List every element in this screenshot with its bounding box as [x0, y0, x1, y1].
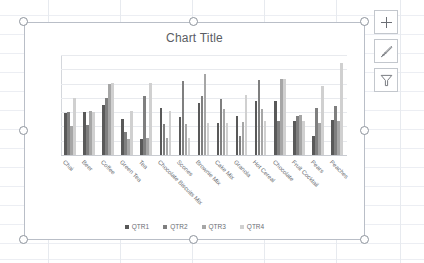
- legend-swatch: [125, 225, 129, 229]
- selection-handle-middle-left[interactable]: [19, 126, 28, 135]
- bar-group[interactable]: [175, 55, 194, 155]
- plus-icon: [379, 15, 394, 30]
- bar-group[interactable]: [328, 55, 347, 155]
- selection-handle-top-center[interactable]: [189, 17, 198, 26]
- legend-item[interactable]: QTR2: [163, 223, 187, 230]
- legend-swatch: [163, 225, 167, 229]
- legend-swatch: [240, 225, 244, 229]
- bar[interactable]: [149, 83, 152, 155]
- selection-handle-bottom-center[interactable]: [189, 235, 198, 244]
- bar[interactable]: [207, 123, 210, 155]
- bar[interactable]: [321, 86, 324, 155]
- selection-handle-top-right[interactable]: [360, 17, 369, 26]
- category-axis-labels: ChaiBeerCoffeeGreen TeaTeaChocolate Bisc…: [61, 157, 347, 227]
- legend-item[interactable]: QTR1: [125, 223, 149, 230]
- plot-area[interactable]: [61, 55, 347, 155]
- paintbrush-icon: [379, 44, 394, 59]
- bar[interactable]: [130, 111, 133, 155]
- bar-group[interactable]: [156, 55, 175, 155]
- legend-label: QTR2: [170, 223, 187, 230]
- bar[interactable]: [188, 138, 191, 155]
- bar[interactable]: [73, 98, 76, 155]
- bar-group[interactable]: [80, 55, 99, 155]
- bar[interactable]: [245, 95, 248, 155]
- selection-handle-top-left[interactable]: [19, 17, 28, 26]
- bar-group[interactable]: [61, 55, 80, 155]
- chart-object[interactable]: Chart Title 0100200300400500600700 ChaiB…: [24, 22, 365, 240]
- chart-title[interactable]: Chart Title: [25, 31, 364, 45]
- chart-styles-button[interactable]: [374, 39, 398, 63]
- chart-filters-button[interactable]: [374, 68, 398, 92]
- bar-group[interactable]: [309, 55, 328, 155]
- bar[interactable]: [169, 111, 172, 155]
- bar-group[interactable]: [118, 55, 137, 155]
- legend-label: QTR1: [132, 223, 149, 230]
- bar[interactable]: [302, 121, 305, 155]
- category-label: Pears: [309, 159, 324, 174]
- legend-item[interactable]: QTR3: [202, 223, 226, 230]
- category-label: Chai: [62, 159, 75, 172]
- category-label: Beer: [81, 159, 94, 172]
- chart-side-buttons[interactable]: [374, 10, 400, 97]
- bar-group[interactable]: [137, 55, 156, 155]
- bar[interactable]: [340, 63, 343, 155]
- funnel-icon: [379, 73, 394, 88]
- legend-label: QTR4: [247, 223, 264, 230]
- category-label: Granola: [233, 159, 252, 178]
- bar-group[interactable]: [271, 55, 290, 155]
- legend-item[interactable]: QTR4: [240, 223, 264, 230]
- chart-elements-button[interactable]: [374, 10, 398, 34]
- bar[interactable]: [92, 112, 95, 155]
- bar[interactable]: [111, 83, 114, 155]
- category-label: Tea: [138, 159, 149, 170]
- legend-swatch: [202, 225, 206, 229]
- bar-group[interactable]: [290, 55, 309, 155]
- bar-group[interactable]: [99, 55, 118, 155]
- bar[interactable]: [283, 79, 286, 155]
- category-label: Coffee: [100, 159, 117, 176]
- bar[interactable]: [226, 123, 229, 155]
- bar-group[interactable]: [252, 55, 271, 155]
- category-label: Scones: [176, 159, 194, 177]
- category-axis-line: [61, 155, 347, 156]
- bar-group[interactable]: [214, 55, 233, 155]
- category-label: Peaches: [328, 159, 349, 180]
- legend-label: QTR3: [209, 223, 226, 230]
- selection-handle-middle-right[interactable]: [360, 126, 369, 135]
- selection-handle-bottom-left[interactable]: [19, 235, 28, 244]
- selection-handle-bottom-right[interactable]: [360, 235, 369, 244]
- chart-legend[interactable]: QTR1QTR2QTR3QTR4: [25, 223, 364, 230]
- bar-group[interactable]: [194, 55, 213, 155]
- bar-group[interactable]: [233, 55, 252, 155]
- bar[interactable]: [264, 121, 267, 155]
